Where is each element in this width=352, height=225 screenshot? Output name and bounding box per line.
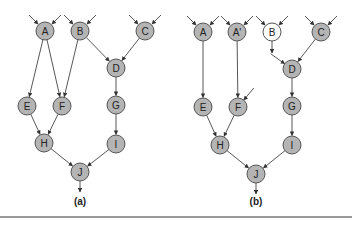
node-e: E xyxy=(18,97,36,115)
node-label: H xyxy=(40,138,47,149)
dangling-input-arrow xyxy=(271,54,285,64)
node-f: F xyxy=(53,97,71,115)
input-arrow xyxy=(152,15,161,24)
edge-e-h xyxy=(31,114,40,134)
input-arrow xyxy=(221,16,230,25)
node-g: G xyxy=(283,97,301,115)
panel-a: ABCDEFGHIJ xyxy=(18,15,161,192)
node-d: D xyxy=(107,59,125,77)
node-c: C xyxy=(136,22,154,40)
input-arrow xyxy=(87,15,96,24)
edge-f-h xyxy=(48,114,58,134)
input-arrow xyxy=(328,16,337,25)
node-d: D xyxy=(283,60,301,78)
node-label: B xyxy=(269,27,276,38)
input-arrow xyxy=(64,15,73,24)
edge-a-e xyxy=(29,40,43,97)
edge-i-j xyxy=(87,150,108,167)
edge-b-f xyxy=(64,40,78,97)
node-a: A xyxy=(36,22,54,40)
edge-c-d xyxy=(298,39,316,61)
node-label: E xyxy=(200,102,207,113)
node-label: J xyxy=(254,169,259,180)
node-h: H xyxy=(211,136,229,154)
node-j: J xyxy=(247,165,265,183)
node-j: J xyxy=(71,163,89,181)
node-label: H xyxy=(216,140,223,151)
edge-a-f xyxy=(47,40,60,97)
input-arrow xyxy=(187,16,196,25)
edge-e-h xyxy=(207,115,216,136)
input-arrow xyxy=(256,16,265,25)
panel-b: AA'BCDEFGHIJ xyxy=(187,16,337,194)
caption-b: (b) xyxy=(250,196,263,207)
node-g: G xyxy=(107,96,125,114)
node-label: B xyxy=(77,26,84,37)
edge-h-j xyxy=(51,149,73,166)
edge-f-h xyxy=(224,115,234,136)
dataflow-diagram: ABCDEFGHIJ AA'BCDEFGHIJ (a) (b) xyxy=(0,0,352,225)
node-label: G xyxy=(288,101,296,112)
node-label: A xyxy=(200,27,207,38)
node-f: F xyxy=(229,98,247,116)
node-b: B xyxy=(71,22,89,40)
input-arrow xyxy=(129,15,138,24)
node-h: H xyxy=(35,134,53,152)
node-b: B xyxy=(263,23,281,41)
input-arrow xyxy=(52,15,61,24)
node-label: C xyxy=(317,27,324,38)
node-a: A xyxy=(194,23,212,41)
node-label: A' xyxy=(233,27,242,38)
node-i: I xyxy=(283,136,301,154)
node-label: E xyxy=(24,101,31,112)
edge-b-d xyxy=(86,37,109,61)
caption-a: (a) xyxy=(74,196,86,207)
node-label: I xyxy=(291,140,294,151)
node-a2: A' xyxy=(228,23,246,41)
node-e: E xyxy=(194,98,212,116)
node-label: G xyxy=(112,100,120,111)
input-arrow xyxy=(244,16,253,25)
edge-h-j xyxy=(227,151,249,168)
input-arrow xyxy=(305,16,314,25)
node-label: J xyxy=(78,167,83,178)
bottom-divider xyxy=(0,216,352,218)
node-label: I xyxy=(115,139,118,150)
node-label: D xyxy=(288,64,295,75)
node-label: F xyxy=(235,102,241,113)
dangling-input-arrow xyxy=(244,88,254,100)
node-c: C xyxy=(312,23,330,41)
input-arrow xyxy=(29,15,38,24)
node-label: D xyxy=(112,63,119,74)
node-label: F xyxy=(59,101,65,112)
edge-a2-f xyxy=(237,41,238,98)
input-arrow xyxy=(279,16,288,25)
node-i: I xyxy=(107,135,125,153)
node-label: A xyxy=(42,26,49,37)
node-label: C xyxy=(141,26,148,37)
edge-c-d xyxy=(122,38,140,60)
input-arrow xyxy=(210,16,219,25)
edge-i-j xyxy=(263,151,285,168)
